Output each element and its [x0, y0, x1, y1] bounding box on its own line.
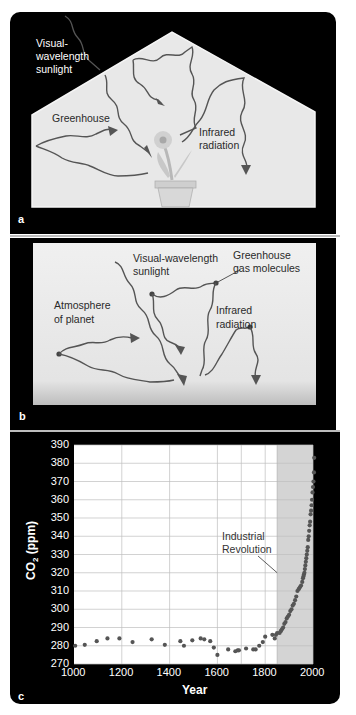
- data-point: [312, 470, 316, 474]
- data-point: [302, 571, 306, 575]
- y-tick-label: 360: [39, 493, 69, 505]
- y-tick-label: 390: [39, 438, 69, 450]
- data-point: [309, 503, 313, 507]
- data-point: [199, 636, 203, 640]
- data-point: [208, 639, 212, 643]
- data-point: [305, 549, 309, 553]
- data-point: [130, 640, 134, 644]
- data-point: [117, 636, 121, 640]
- data-point: [105, 636, 109, 640]
- data-point: [293, 598, 297, 602]
- data-point: [303, 563, 307, 567]
- data-point: [305, 552, 309, 556]
- data-point: [150, 637, 154, 641]
- annotation-line1: Industrial: [222, 530, 272, 543]
- data-point: [226, 647, 230, 651]
- industrial-revolution-annotation: Industrial Revolution: [222, 530, 272, 556]
- data-point: [292, 602, 296, 606]
- data-point: [95, 639, 99, 643]
- data-point: [312, 456, 316, 460]
- x-tick-label: 1000: [61, 666, 85, 678]
- data-point: [306, 545, 310, 549]
- data-point: [287, 613, 291, 617]
- data-point: [163, 643, 167, 647]
- y-axis-label: CO2 (ppm): [24, 521, 40, 580]
- data-point: [215, 653, 219, 657]
- data-point: [308, 523, 312, 527]
- data-point: [300, 580, 304, 584]
- data-point: [311, 479, 315, 483]
- data-point: [212, 645, 216, 649]
- data-point: [244, 646, 248, 650]
- data-point: [257, 644, 261, 648]
- data-point: [273, 636, 277, 640]
- data-point: [309, 509, 313, 513]
- y-tick-label: 320: [39, 566, 69, 578]
- annotation-line2: Revolution: [222, 543, 272, 556]
- x-tick-label: 2000: [300, 666, 324, 678]
- data-point: [182, 644, 186, 648]
- y-tick-label: 340: [39, 529, 69, 541]
- data-point: [270, 633, 274, 637]
- y-tick-label: 310: [39, 584, 69, 596]
- data-point: [307, 534, 311, 538]
- data-point: [307, 529, 311, 533]
- data-point: [303, 567, 307, 571]
- data-point: [310, 490, 314, 494]
- data-point: [283, 620, 287, 624]
- y-tick-label: 370: [39, 475, 69, 487]
- data-point: [304, 560, 308, 564]
- x-tick-label: 1800: [252, 666, 276, 678]
- y-tick-label: 330: [39, 548, 69, 560]
- data-point: [309, 512, 313, 516]
- data-point: [310, 498, 314, 502]
- y-tick-label: 280: [39, 639, 69, 651]
- x-tick-label: 1200: [109, 666, 133, 678]
- y-tick-label: 300: [39, 602, 69, 614]
- y-tick-label: 350: [39, 511, 69, 523]
- data-point: [73, 644, 77, 648]
- data-point: [311, 485, 315, 489]
- data-point: [281, 625, 285, 629]
- data-point: [299, 583, 303, 587]
- data-point: [178, 639, 182, 643]
- data-point: [263, 635, 267, 639]
- data-point: [202, 637, 206, 641]
- data-point: [306, 538, 310, 542]
- data-point: [83, 643, 87, 647]
- y-tick-label: 380: [39, 456, 69, 468]
- data-point: [237, 648, 241, 652]
- x-tick-label: 1400: [157, 666, 181, 678]
- x-tick-label: 1600: [204, 666, 228, 678]
- data-point: [294, 594, 298, 598]
- data-point: [308, 520, 312, 524]
- data-point: [304, 556, 308, 560]
- data-point: [261, 640, 265, 644]
- panel-c-letter: c: [18, 690, 24, 702]
- data-point: [254, 647, 258, 651]
- data-point: [190, 638, 194, 642]
- y-tick-label: 290: [39, 621, 69, 633]
- x-axis-label: Year: [182, 683, 207, 697]
- data-point: [289, 607, 293, 611]
